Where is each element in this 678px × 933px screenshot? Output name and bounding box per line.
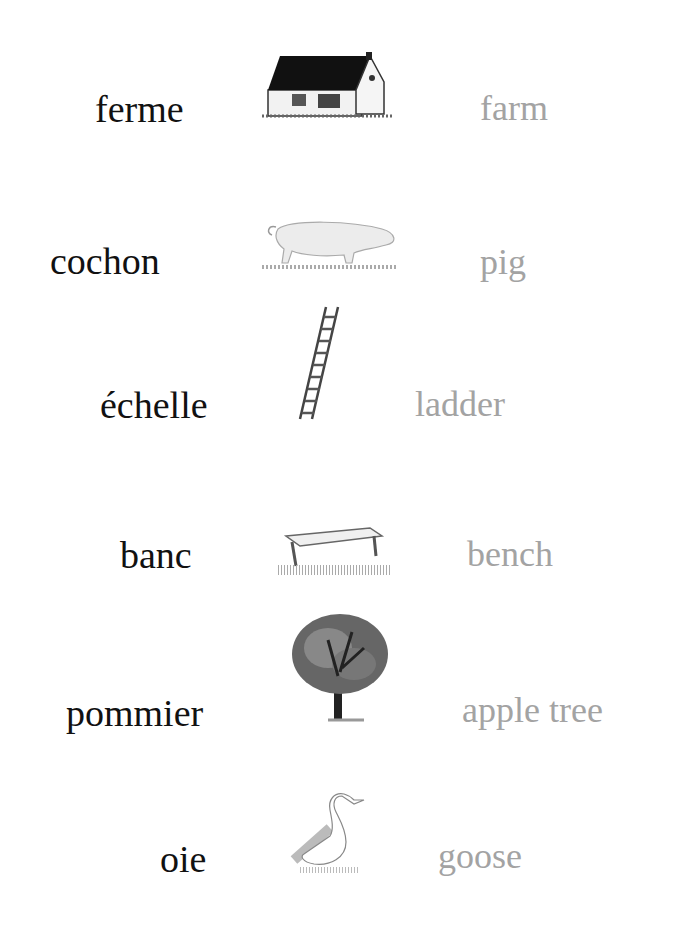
french-word: échelle bbox=[100, 386, 208, 424]
goose-icon bbox=[290, 790, 380, 880]
farmhouse-icon bbox=[260, 52, 395, 124]
english-translation: goose bbox=[438, 838, 522, 874]
english-translation: apple tree bbox=[462, 692, 603, 728]
french-word: ferme bbox=[95, 90, 184, 128]
pig-icon bbox=[262, 215, 400, 275]
english-translation: ladder bbox=[415, 386, 505, 422]
ladder-icon bbox=[296, 305, 346, 423]
french-word: pommier bbox=[66, 694, 203, 732]
bench-icon bbox=[270, 522, 395, 580]
english-translation: pig bbox=[480, 244, 526, 280]
english-translation: farm bbox=[480, 90, 548, 126]
french-word: oie bbox=[160, 840, 206, 878]
french-word: cochon bbox=[50, 242, 160, 280]
apple-tree-icon bbox=[288, 612, 394, 724]
english-translation: bench bbox=[467, 536, 553, 572]
french-word: banc bbox=[120, 536, 192, 574]
